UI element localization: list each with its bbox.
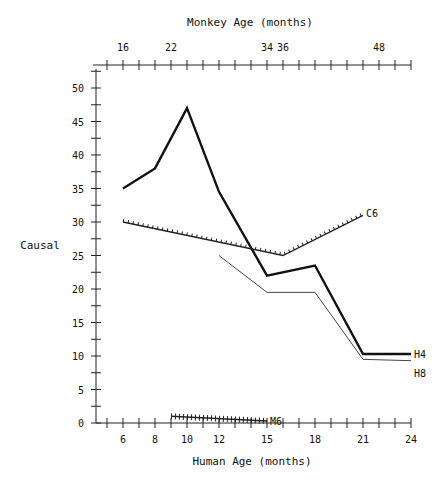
- series-m6: [171, 416, 267, 421]
- y-tick-label: 0: [78, 418, 84, 429]
- y-tick-label: 10: [72, 351, 84, 362]
- y-tick-label: 25: [72, 251, 84, 262]
- series-label-h4: H4: [414, 349, 426, 360]
- top-axis-title: Monkey Age (months): [187, 16, 313, 29]
- x-tick-label: 18: [309, 434, 321, 445]
- labels: Monkey Age (months) Human Age (months) C…: [20, 16, 426, 468]
- series-label-m6: M6: [270, 416, 282, 427]
- x-tick-label: 10: [181, 434, 193, 445]
- y-tick-label: 20: [72, 284, 84, 295]
- y-tick-label: 40: [72, 150, 84, 161]
- y-tick-label: 50: [72, 83, 84, 94]
- y-tick-label: 15: [72, 318, 84, 329]
- top-tick-label: 48: [373, 42, 385, 53]
- series-h8: [219, 256, 411, 361]
- x-tick-label: 8: [152, 434, 158, 445]
- y-tick-label: 45: [72, 117, 84, 128]
- series-lines: [123, 108, 411, 421]
- y-axis-title: Causal: [20, 239, 60, 252]
- y-tick-label: 5: [78, 385, 84, 396]
- y-tick-label: 35: [72, 184, 84, 195]
- top-tick-label: 22: [165, 42, 177, 53]
- series-label-h8: H8: [414, 368, 426, 379]
- x-tick-label: 6: [120, 434, 126, 445]
- top-tick-label: 36: [277, 42, 289, 53]
- causal-line-chart: Monkey Age (months) Human Age (months) C…: [0, 0, 441, 488]
- x-tick-label: 12: [213, 434, 225, 445]
- series-label-c6: C6: [366, 208, 378, 219]
- y-tick-label: 30: [72, 217, 84, 228]
- x-tick-label: 24: [405, 434, 417, 445]
- bottom-axis-title: Human Age (months): [192, 455, 311, 468]
- top-tick-label: 34: [261, 42, 273, 53]
- top-tick-label: 16: [117, 42, 129, 53]
- axes: [91, 60, 411, 428]
- x-tick-label: 15: [261, 434, 273, 445]
- x-tick-label: 21: [357, 434, 369, 445]
